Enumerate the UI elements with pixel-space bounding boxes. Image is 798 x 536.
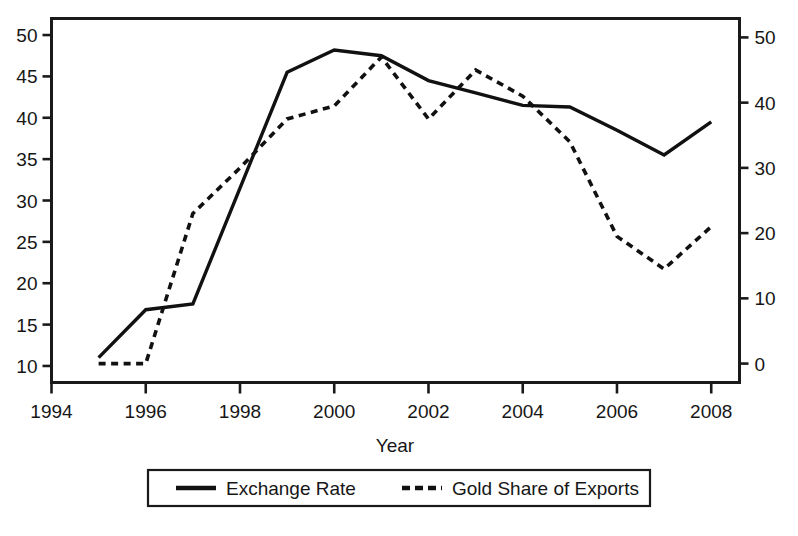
figure-root: 101520253035404550 01020304050 199419961… <box>0 0 798 536</box>
left-tick-label-25: 25 <box>16 232 37 253</box>
x-tick-label-2008: 2008 <box>690 401 732 422</box>
left-tick-label-10: 10 <box>16 356 37 377</box>
left-tick-label-30: 30 <box>16 191 37 212</box>
x-tick-label-2006: 2006 <box>596 401 638 422</box>
right-tick-label-40: 40 <box>755 93 776 114</box>
left-tick-label-40: 40 <box>16 108 37 129</box>
x-tick-label-1998: 1998 <box>219 401 261 422</box>
left-tick-label-45: 45 <box>16 66 37 87</box>
x-axis-ticks <box>52 383 712 394</box>
legend-label-exchange-rate: Exchange Rate <box>226 478 356 499</box>
right-tick-label-0: 0 <box>755 354 766 375</box>
series-line-gold-share-of-exports <box>99 57 712 364</box>
right-tick-label-20: 20 <box>755 223 776 244</box>
x-axis-title: Year <box>376 435 415 456</box>
x-tick-label-1994: 1994 <box>30 401 73 422</box>
right-tick-label-30: 30 <box>755 158 776 179</box>
x-tick-label-2004: 2004 <box>502 401 545 422</box>
right-axis-tick-labels: 01020304050 <box>755 27 776 374</box>
left-axis-tick-labels: 101520253035404550 <box>16 25 37 377</box>
left-tick-label-15: 15 <box>16 315 37 336</box>
left-tick-label-50: 50 <box>16 25 37 46</box>
left-tick-label-20: 20 <box>16 273 37 294</box>
x-tick-label-1996: 1996 <box>125 401 167 422</box>
chart-legend: Exchange Rate Gold Share of Exports <box>148 470 650 506</box>
series-line-exchange-rate <box>99 50 712 358</box>
line-chart: 101520253035404550 01020304050 199419961… <box>0 0 798 536</box>
x-axis-tick-labels: 19941996199820002002200420062008 <box>30 401 732 422</box>
x-tick-label-2000: 2000 <box>313 401 355 422</box>
legend-label-gold-share-of-exports: Gold Share of Exports <box>452 478 639 499</box>
left-tick-label-35: 35 <box>16 149 37 170</box>
right-tick-label-50: 50 <box>755 27 776 48</box>
right-tick-label-10: 10 <box>755 288 776 309</box>
x-tick-label-2002: 2002 <box>407 401 449 422</box>
